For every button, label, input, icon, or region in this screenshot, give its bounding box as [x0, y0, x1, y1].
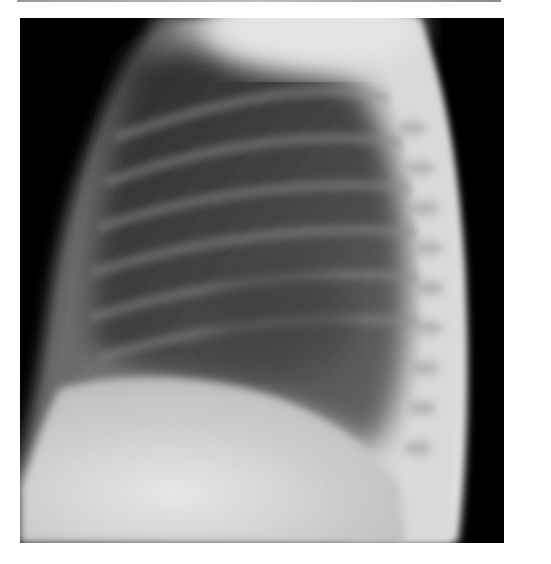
top-divider — [17, 0, 501, 2]
xray-rendering — [20, 18, 504, 543]
chest-xray-image: Lateral chest X-ray — [20, 18, 504, 543]
